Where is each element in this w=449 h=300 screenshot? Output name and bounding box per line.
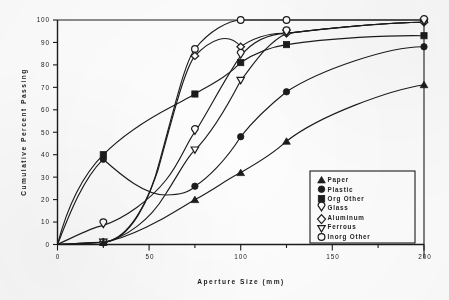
legend-label-aluminum: Aluminum: [328, 214, 365, 221]
y-tick-label-90: 90: [41, 39, 50, 46]
marker-paper-100: [237, 169, 245, 175]
x-tick-label-0: 0: [56, 253, 60, 260]
y-tick-label-60: 60: [41, 106, 50, 113]
chart-legend: Paper Plastic Org Other Glass Aluminum F…: [310, 171, 415, 243]
x-axis-ticks: [58, 245, 425, 251]
marker-paper-75: [191, 196, 199, 202]
marker-glass-100: [237, 49, 244, 58]
marker-plastic-125: [283, 89, 289, 95]
legend-label-org-other: Org Other: [328, 195, 365, 203]
markers-plastic: [100, 44, 427, 190]
y-tick-label-20: 20: [41, 196, 50, 203]
marker-paper-200: [420, 81, 428, 87]
marker-org-other-200: [421, 33, 427, 39]
legend-marker-inorg-other-icon: [318, 234, 325, 241]
marker-plastic-100: [238, 134, 244, 140]
x-tick-label-100: 100: [234, 253, 247, 260]
y-tick-label-40: 40: [41, 151, 50, 158]
x-tick-label-150: 150: [326, 253, 339, 260]
x-tick-label-200: 200: [418, 253, 431, 260]
y-axis-tick-labels: 100 90 80 70 60 50 40 30 20 10 0: [37, 16, 50, 248]
legend-label-paper: Paper: [328, 176, 350, 184]
y-tick-label-80: 80: [41, 61, 50, 68]
legend-label-inorg-other: Inorg Other: [328, 233, 371, 241]
x-tick-label-50: 50: [146, 253, 155, 260]
legend-marker-plastic-icon: [318, 186, 325, 193]
marker-glass-75: [192, 126, 199, 135]
cumulative-percent-passing-chart: 100 90 80 70 60 50 40 30 20 10 0 0: [0, 0, 449, 300]
marker-org-other-100: [238, 60, 244, 66]
legend-marker-org-other-icon: [318, 196, 324, 202]
marker-inorg-other-125: [283, 17, 290, 24]
y-tick-label-70: 70: [41, 84, 50, 91]
y-axis-title: Cumulative Percent Passing: [20, 68, 28, 196]
chart-figure: 100 90 80 70 60 50 40 30 20 10 0 0: [0, 0, 449, 300]
y-tick-label-30: 30: [41, 174, 50, 181]
marker-plastic-75: [192, 183, 198, 189]
legend-label-ferrous: Ferrous: [328, 223, 357, 230]
y-tick-label-0: 0: [46, 241, 50, 248]
x-axis-tick-labels: 0 50 100 150 200: [56, 253, 432, 260]
marker-org-other-125: [283, 42, 289, 48]
marker-inorg-other-75: [192, 46, 199, 53]
x-axis-title: Aperture Size (mm): [197, 278, 284, 286]
marker-plastic-25: [100, 156, 106, 162]
marker-plastic-200: [421, 44, 427, 50]
y-tick-label-100: 100: [37, 16, 50, 23]
marker-inorg-other-100: [237, 17, 244, 24]
y-tick-label-10: 10: [41, 218, 50, 225]
legend-label-plastic: Plastic: [328, 186, 354, 193]
y-tick-label-50: 50: [41, 129, 50, 136]
legend-label-glass: Glass: [328, 204, 349, 211]
marker-ferrous-100: [237, 77, 244, 83]
marker-org-other-75: [192, 91, 198, 97]
